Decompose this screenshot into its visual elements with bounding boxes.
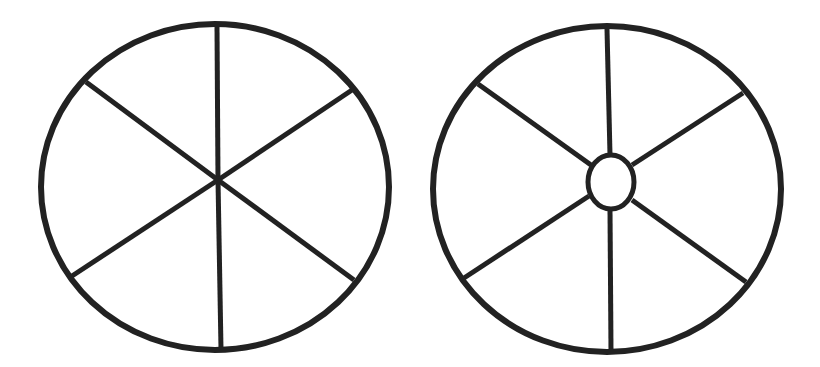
spoke-4 (218, 180, 221, 349)
spoke-6 (86, 82, 218, 180)
spoke-6 (478, 84, 591, 165)
spoke-2 (632, 93, 743, 165)
spoke-3 (218, 180, 354, 280)
spoke-1 (217, 27, 218, 180)
spoke-3 (632, 200, 746, 282)
spoke-2 (218, 90, 352, 180)
spoke-5 (72, 180, 218, 276)
wheel-diagrams (0, 0, 820, 367)
spoke-5 (464, 196, 589, 278)
wheel-without-hub (41, 24, 389, 350)
wheel-with-hub (433, 26, 781, 352)
spoke-4 (610, 210, 611, 351)
spoke-1 (607, 29, 610, 155)
hub-ring (588, 155, 634, 209)
diagram-canvas (0, 0, 820, 367)
